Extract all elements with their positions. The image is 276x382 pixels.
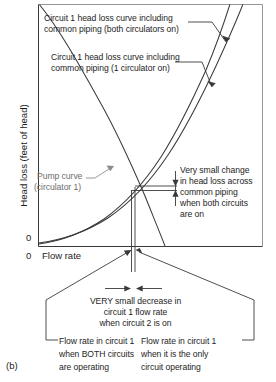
pump-curve-leader bbox=[86, 166, 114, 178]
y-axis-zero-tick: 0 bbox=[26, 232, 31, 243]
callout-upper-line2: common piping (both circulators on) bbox=[44, 24, 179, 34]
head-loss-callout-line3: common piping bbox=[180, 187, 238, 197]
callout-lower-line1: Circuit 1 head loss curve including bbox=[51, 52, 180, 62]
head-loss-callout-line1: Very small change bbox=[180, 165, 249, 175]
pump-curve-path bbox=[39, 4, 165, 246]
right-operating-caption-line1: Flow rate in circuit 1 bbox=[141, 336, 216, 346]
callout-upper-line1: Circuit 1 head loss curve including bbox=[44, 13, 173, 23]
flow-rate-difference-bracket bbox=[105, 285, 162, 291]
figure-panel-b: Circuit 1 head loss curve including comm… bbox=[0, 0, 276, 382]
left-operating-caption-line3: are operating bbox=[59, 362, 109, 372]
head-loss-callout-line4: when both circuits bbox=[180, 198, 248, 208]
head-loss-callout-line5: are on bbox=[180, 209, 204, 219]
y-axis-title: Head loss (feet of head) bbox=[18, 86, 29, 226]
curve-group bbox=[39, 4, 243, 246]
left-operating-caption-line1: Flow rate in circuit 1 bbox=[59, 336, 134, 346]
right-operating-caption-line3: circuit operating bbox=[141, 362, 201, 372]
x-axis-zero-tick: 0 bbox=[26, 250, 31, 261]
operating-point-markers bbox=[132, 187, 136, 272]
pump-curve-label-line2: (circulator 1) bbox=[34, 182, 81, 192]
flow-decrease-callout-line1: VERY small decrease in bbox=[53, 296, 218, 306]
flow-decrease-callout-line3: when circuit 2 is on bbox=[53, 318, 218, 328]
left-operating-caption-line2: when BOTH circuits bbox=[59, 349, 134, 359]
x-axis-title: Flow rate bbox=[42, 250, 81, 261]
flow-decrease-callout-line2: circuit 1 flow rate bbox=[53, 307, 218, 317]
right-operating-caption-line2: when it is the only bbox=[141, 349, 208, 359]
head-loss-difference-bracket bbox=[131, 171, 179, 206]
panel-label: (b) bbox=[6, 360, 18, 371]
pump-curve-label-line1: Pump curve bbox=[37, 171, 82, 181]
callout-lower-line2: common piping (1 circulator on) bbox=[51, 63, 170, 73]
head-loss-callout-line2: in head loss across bbox=[180, 176, 253, 186]
